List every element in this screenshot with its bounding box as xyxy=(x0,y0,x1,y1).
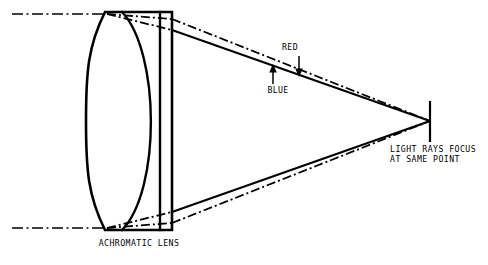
blue-ray-label: BLUE xyxy=(267,85,288,95)
focus-caption-line2: AT SAME POINT xyxy=(390,154,460,164)
blue-refracted-ray-top xyxy=(172,30,430,121)
focus-caption-line1: LIGHT RAYS FOCUS xyxy=(390,144,476,154)
blue-refracted-ray-bottom xyxy=(172,121,430,212)
red-refracted-ray-bottom xyxy=(172,121,430,223)
achromatic-doublet-lens xyxy=(86,12,172,230)
optics-illustration: RED BLUE LIGHT RAYS FOCUS AT SAME POINT … xyxy=(0,0,488,265)
blue-callout: BLUE xyxy=(267,64,288,95)
lens-caption: ACHROMATIC LENS xyxy=(99,238,180,248)
red-ray-label: RED xyxy=(282,42,298,52)
optical-diagram: RED BLUE LIGHT RAYS FOCUS AT SAME POINT … xyxy=(0,0,488,265)
focus-caption: LIGHT RAYS FOCUS AT SAME POINT xyxy=(390,144,476,164)
